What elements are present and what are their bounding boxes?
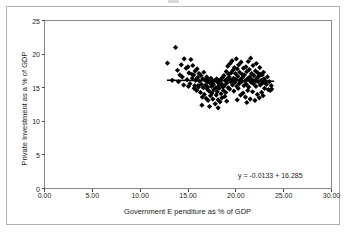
y-tick-label: 5 xyxy=(36,151,40,158)
x-tick-label: 10.00 xyxy=(131,192,149,199)
y-axis-title: Private Investment as a % of GDP xyxy=(20,29,29,189)
y-tick-label: 20 xyxy=(32,51,40,58)
x-tick-label: 25.00 xyxy=(275,192,293,199)
plot-area-border xyxy=(45,21,332,189)
x-tick-label: 15.00 xyxy=(179,192,197,199)
regression-equation-label: y = -0.0133 + 16.285 xyxy=(238,172,303,179)
x-tick-label: 0.00 xyxy=(38,192,52,199)
scatter-plot-canvas xyxy=(0,0,347,232)
y-tick-label: 15 xyxy=(32,84,40,91)
y-tick-label: 10 xyxy=(32,118,40,125)
x-axis-title: Government E penditure as % of GDP xyxy=(44,207,331,216)
y-tick-label: 0 xyxy=(36,185,40,192)
y-tick-label: 25 xyxy=(32,17,40,24)
x-tick-label: 30.00 xyxy=(323,192,341,199)
x-tick-label: 5.00 xyxy=(86,192,100,199)
axis-ticks xyxy=(42,21,332,192)
data-points-group xyxy=(165,45,274,111)
x-tick-label: 20.00 xyxy=(227,192,245,199)
